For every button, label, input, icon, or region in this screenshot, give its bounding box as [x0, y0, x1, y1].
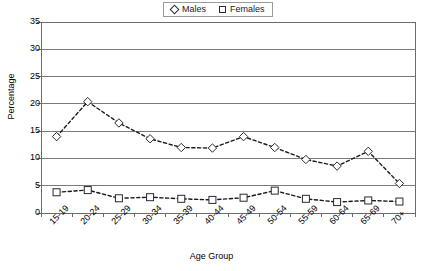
x-tick-label: 60-64 — [328, 204, 351, 227]
x-tick-label: 55-59 — [297, 204, 320, 227]
x-tick-label: 30-34 — [141, 204, 164, 227]
x-tick-label: 70+ — [390, 209, 407, 226]
x-tick-label: 40-44 — [203, 204, 226, 227]
x-tick-label: 20-24 — [79, 204, 102, 227]
x-tick-label: 15-19 — [48, 204, 71, 227]
chart-container: Males Females Percentage Age Group 05101… — [0, 0, 423, 271]
x-tick-label: 25-29 — [110, 204, 133, 227]
x-tick-label: 35-39 — [172, 204, 195, 227]
x-tick-label: 50-54 — [266, 204, 289, 227]
x-tick-label: 45-49 — [235, 204, 258, 227]
x-tick-label: 65-69 — [359, 204, 382, 227]
x-tick-label-group: 15-1920-2425-2930-3435-3940-4445-4950-54… — [0, 0, 423, 271]
